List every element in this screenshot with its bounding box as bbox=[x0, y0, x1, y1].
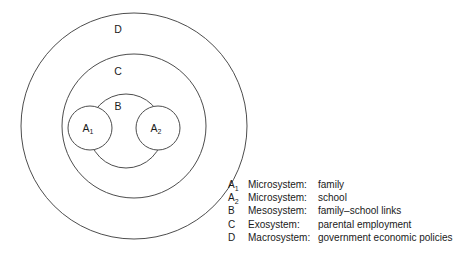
legend-description-B: family–school links bbox=[318, 204, 473, 217]
node-label-A1-base: A bbox=[83, 122, 90, 134]
legend-key-A1-base: A bbox=[228, 179, 235, 190]
legend-term-C: Exosystem: bbox=[248, 218, 318, 231]
legend-row: B Mesosystem: family–school links bbox=[228, 204, 473, 217]
legend-term-B: Mesosystem: bbox=[248, 204, 318, 217]
ring-circle-D bbox=[21, 13, 247, 239]
legend-key-C: C bbox=[228, 218, 248, 231]
legend-description-A1: family bbox=[318, 178, 473, 191]
legend-term-D: Macrosystem: bbox=[248, 231, 318, 244]
legend-term-A1: Microsystem: bbox=[248, 178, 318, 191]
node-label-A2-base: A bbox=[151, 122, 158, 134]
legend-row: D Macrosystem: government economic polic… bbox=[228, 231, 473, 244]
legend-description-A2: school bbox=[318, 191, 473, 204]
legend-row: C Exosystem: parental employment bbox=[228, 218, 473, 231]
ring-label-D: D bbox=[114, 23, 122, 35]
ring-label-B: B bbox=[114, 100, 121, 112]
legend-key-B: B bbox=[228, 204, 248, 217]
legend-key-B-base: B bbox=[228, 205, 235, 216]
node-label-A1-subscript: 1 bbox=[90, 128, 94, 135]
legend-row: A2 Microsystem: school bbox=[228, 191, 473, 204]
ring-label-C: C bbox=[114, 65, 122, 77]
legend-key-D: D bbox=[228, 231, 248, 244]
legend-key-C-base: C bbox=[228, 219, 235, 230]
legend-row: A1 Microsystem: family bbox=[228, 178, 473, 191]
legend-key-A2-base: A bbox=[228, 192, 235, 203]
legend-term-A2: Microsystem: bbox=[248, 191, 318, 204]
node-label-A2-subscript: 2 bbox=[158, 128, 162, 135]
diagram-canvas: D C B A1 A2 A1 Microsystem: family A2 Mi… bbox=[0, 0, 475, 261]
legend-key-A1: A1 bbox=[228, 178, 248, 191]
legend-description-D: government economic policies bbox=[318, 231, 473, 244]
legend-key-A2: A2 bbox=[228, 191, 248, 204]
legend: A1 Microsystem: family A2 Microsystem: s… bbox=[228, 178, 473, 244]
legend-key-D-base: D bbox=[228, 232, 235, 243]
legend-description-C: parental employment bbox=[318, 218, 473, 231]
